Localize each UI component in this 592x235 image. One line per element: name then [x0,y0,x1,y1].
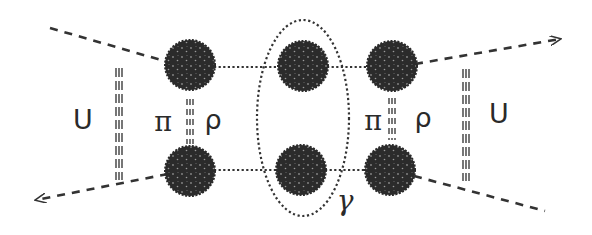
label-gamma: γ [337,184,354,217]
label-left-pi: π [154,106,172,137]
label-left-u: U [73,104,93,135]
pi-rho-exchange-right [389,98,395,140]
blob-bottom-right [365,145,415,195]
blob-top-right [367,41,417,91]
u-exchange-right [463,69,469,181]
label-right-u: U [489,98,509,129]
incoming-top-left-line [50,28,168,62]
pi-rho-exchange-left [187,99,193,144]
u-exchange-left [116,68,122,180]
label-left-rho: ρ [204,104,221,135]
blob-top-left [165,40,215,90]
label-right-rho: ρ [414,102,431,133]
blob-top-center [278,41,328,91]
incoming-bottom-right-line [414,176,545,211]
blob-bottom-center [276,145,326,195]
blob-bottom-left [165,146,215,196]
particle-exchange-diagram: U π ρ π ρ U γ [0,0,592,235]
outgoing-top-right-arrow [415,39,560,64]
label-right-pi: π [364,105,382,136]
outgoing-bottom-left-arrow [36,174,168,200]
